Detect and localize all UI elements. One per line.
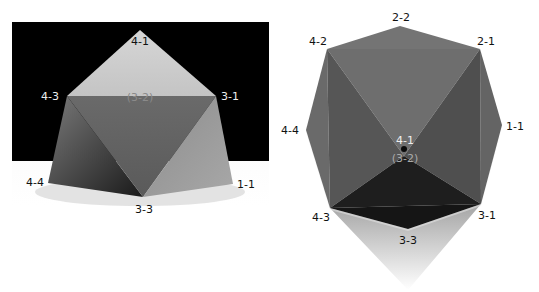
- vertex-label: 3-3: [135, 203, 153, 216]
- vertex-label: 1-1: [506, 120, 524, 133]
- vertex-label: 1-1: [237, 178, 255, 191]
- vertex-label: 4-1: [396, 134, 414, 147]
- vertex-label: 3-3: [399, 234, 417, 247]
- face-left-edge: [306, 49, 330, 208]
- vertex-label: 4-1: [131, 35, 149, 48]
- vertex-label: 4-3: [41, 90, 59, 103]
- vertex-label: 3-1: [478, 209, 496, 222]
- vertex-label: 4-2: [309, 35, 327, 48]
- hidden-vertex-label: (3-2): [127, 91, 154, 104]
- vertex-label: 4-4: [26, 176, 44, 189]
- vertex-label: 3-1: [221, 90, 239, 103]
- vertex-label: 2-1: [477, 35, 495, 48]
- face-top-edge: [327, 26, 480, 49]
- face-right-edge: [480, 49, 502, 204]
- right-view: 2-2 4-2 2-1 4-4 1-1 4-1 (3-2) 4-3 3-1 3-…: [281, 11, 524, 290]
- hidden-vertex-label: (3-2): [392, 152, 419, 165]
- vertex-label: 4-4: [281, 124, 299, 137]
- vertex-label: 4-3: [312, 211, 330, 224]
- left-photo: 4-1 4-3 3-1 (3-2) 4-4 3-3 1-1: [12, 22, 269, 216]
- vertex-label: 2-2: [392, 11, 410, 24]
- octahedron-diagram: 4-1 4-3 3-1 (3-2) 4-4 3-3 1-1 2-2 4-2 2-…: [0, 0, 539, 292]
